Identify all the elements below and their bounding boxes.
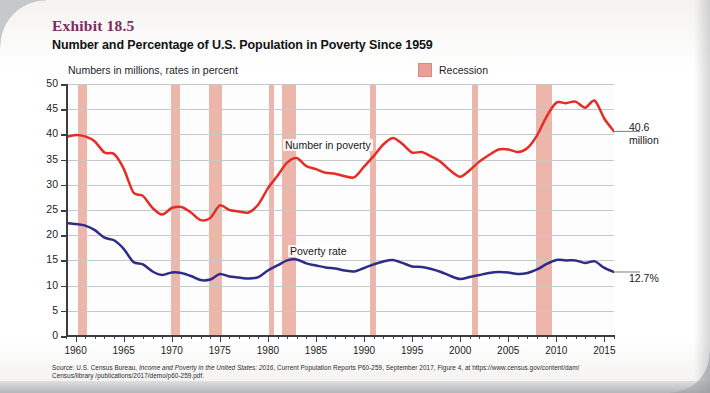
chart-plot-area [66,84,614,336]
x-axis-tick-label: 1995 [392,345,432,356]
source-note: Source: U.S. Census Bureau, Income and P… [52,364,692,381]
x-axis-minor-tick [287,336,288,339]
x-axis-minor-tick [479,336,480,339]
x-axis-minor-tick [85,336,86,339]
x-axis-major-tick [508,336,509,342]
y-axis-tick-mark [61,160,66,162]
x-axis-minor-tick [614,336,615,339]
x-axis-minor-tick [210,336,211,339]
y-axis-tick-label: 40 [32,127,58,139]
y-axis-tick-mark [61,109,66,111]
x-axis-minor-tick [393,336,394,339]
y-axis-tick-label: 15 [32,253,58,265]
x-axis [66,335,615,337]
y-axis-tick-label: 50 [32,77,58,89]
x-axis-minor-tick [518,336,519,339]
x-axis-minor-tick [181,336,182,339]
x-axis-minor-tick [383,336,384,339]
x-axis-minor-tick [527,336,528,339]
x-axis-major-tick [172,336,173,342]
x-axis-minor-tick [143,336,144,339]
legend-item-recession: Recession [439,64,488,76]
x-axis-minor-tick [441,336,442,339]
y-axis-tick-mark [61,185,66,187]
x-axis-major-tick [76,336,77,342]
x-axis-tick-label: 1965 [104,345,144,356]
y-axis-tick-label: 25 [32,203,58,215]
x-axis-tick-label: 1990 [344,345,384,356]
x-axis-major-tick [124,336,125,342]
x-axis-minor-tick [258,336,259,339]
x-axis-major-tick [604,336,605,342]
x-axis-minor-tick [489,336,490,339]
callout-number-in-poverty: 40.6 million [629,121,659,146]
y-axis-tick-label: 0 [32,329,58,341]
y-axis-tick-label: 35 [32,153,58,165]
x-axis-minor-tick [153,336,154,339]
x-axis-minor-tick [201,336,202,339]
y-axis-tick-mark [61,260,66,262]
x-axis-minor-tick [402,336,403,339]
x-axis-major-tick [556,336,557,342]
x-axis-minor-tick [499,336,500,339]
source-line1-a: Source: U.S. Census Bureau, [52,364,139,371]
chart-series-svg [66,84,614,336]
x-axis-tick-label: 2015 [584,345,624,356]
y-axis-tick-mark [61,210,66,212]
x-axis-minor-tick [114,336,115,339]
series-label-number-in-poverty: Number in poverty [283,139,373,151]
y-axis-tick-label: 5 [32,304,58,316]
page-corner-top-left [0,0,46,46]
x-axis-tick-label: 2005 [488,345,528,356]
callout-number-unit: million [629,134,659,147]
y-axis-tick-mark [61,286,66,288]
x-axis-minor-tick [585,336,586,339]
x-axis-major-tick [220,336,221,342]
x-axis-minor-tick [422,336,423,339]
x-axis-minor-tick [95,336,96,339]
x-axis-minor-tick [547,336,548,339]
x-axis-minor-tick [354,336,355,339]
x-axis-tick-label: 2000 [440,345,480,356]
recession-swatch-icon [418,63,432,77]
source-line2: Census/library /publications/2017/demo/p… [52,372,204,379]
x-axis-tick-label: 1980 [248,345,288,356]
callout-number-value: 40.6 [629,121,659,134]
x-axis-minor-tick [297,336,298,339]
x-axis-minor-tick [249,336,250,339]
x-axis-major-tick [364,336,365,342]
x-axis-minor-tick [66,336,67,339]
x-axis-minor-tick [431,336,432,339]
x-axis-major-tick [268,336,269,342]
x-axis-minor-tick [326,336,327,339]
y-axis-tick-mark [61,235,66,237]
x-axis-minor-tick [566,336,567,339]
x-axis-minor-tick [229,336,230,339]
x-axis-minor-tick [470,336,471,339]
source-line1-italic: Income and Poverty in the United States:… [139,364,273,371]
y-axis [66,84,68,336]
y-axis-tick-mark [61,311,66,313]
x-axis-minor-tick [191,336,192,339]
x-axis-tick-label: 1975 [200,345,240,356]
y-axis-tick-mark [61,134,66,136]
x-axis-minor-tick [374,336,375,339]
page-title: Number and Percentage of U.S. Population… [52,38,433,52]
x-axis-minor-tick [537,336,538,339]
x-axis-minor-tick [104,336,105,339]
y-axis-tick-mark [61,84,66,86]
x-axis-minor-tick [335,336,336,339]
x-axis-minor-tick [278,336,279,339]
y-axis-tick-label: 30 [32,178,58,190]
x-axis-minor-tick [345,336,346,339]
page-bottom-edge [0,381,710,393]
x-axis-tick-label: 1985 [296,345,336,356]
x-axis-tick-label: 1970 [152,345,192,356]
x-axis-tick-label: 2010 [536,345,576,356]
y-axis-tick-label: 20 [32,228,58,240]
x-axis-tick-label: 1960 [56,345,96,356]
legend: Recession [418,63,488,77]
x-axis-minor-tick [595,336,596,339]
x-axis-minor-tick [239,336,240,339]
series-label-poverty-rate: Poverty rate [288,245,349,257]
